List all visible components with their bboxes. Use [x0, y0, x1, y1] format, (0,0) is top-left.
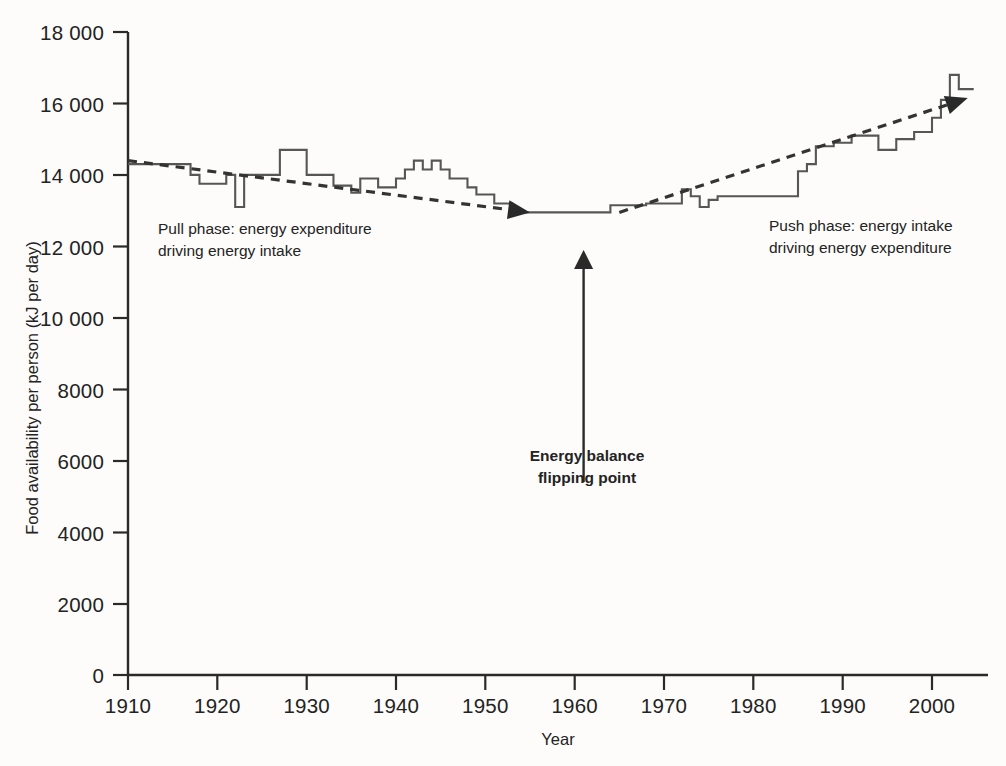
x-tick-label-1930: 1930: [283, 694, 329, 717]
food-availability-line-chart: 18 000 16 000 14 000 12 000 10 000 8000 …: [0, 0, 1006, 766]
y-tick-label-18000: 18 000: [40, 21, 104, 44]
y-tick-label-4000: 4000: [58, 522, 104, 545]
y-tick-label-6000: 6000: [58, 450, 104, 473]
y-tick-label-0: 0: [92, 664, 104, 687]
push-phase-line-2: driving energy expenditure: [769, 239, 952, 256]
y-tick-label-12000: 12 000: [40, 236, 104, 259]
push-phase-line-1: Push phase: energy intake: [769, 217, 953, 234]
x-tick-label-1990: 1990: [819, 694, 865, 717]
y-tick-label-10000: 10 000: [40, 307, 104, 330]
y-tick-label-16000: 16 000: [40, 93, 104, 116]
x-tick-label-1910: 1910: [105, 694, 151, 717]
x-tick-label-1950: 1950: [462, 694, 508, 717]
y-tick-label-8000: 8000: [58, 379, 104, 402]
x-tick-label-1920: 1920: [194, 694, 240, 717]
pull-phase-line-2: driving energy intake: [158, 242, 301, 259]
flipping-point-line-2: flipping point: [538, 469, 636, 486]
y-tick-label-2000: 2000: [58, 593, 104, 616]
y-axis-title: Food availability per person (kJ per day…: [23, 241, 41, 534]
y-tick-label-14000: 14 000: [40, 164, 104, 187]
plot-background: [0, 0, 1006, 766]
x-tick-label-1940: 1940: [373, 694, 419, 717]
x-tick-label-1960: 1960: [551, 694, 597, 717]
x-tick-label-2000: 2000: [909, 694, 955, 717]
x-tick-label-1980: 1980: [730, 694, 776, 717]
x-tick-label-1970: 1970: [641, 694, 687, 717]
chart-figure: 18 000 16 000 14 000 12 000 10 000 8000 …: [0, 0, 1006, 766]
pull-phase-line-1: Pull phase: energy expenditure: [158, 220, 372, 237]
x-axis-title: Year: [541, 730, 575, 748]
flipping-point-line-1: Energy balance: [530, 447, 645, 464]
